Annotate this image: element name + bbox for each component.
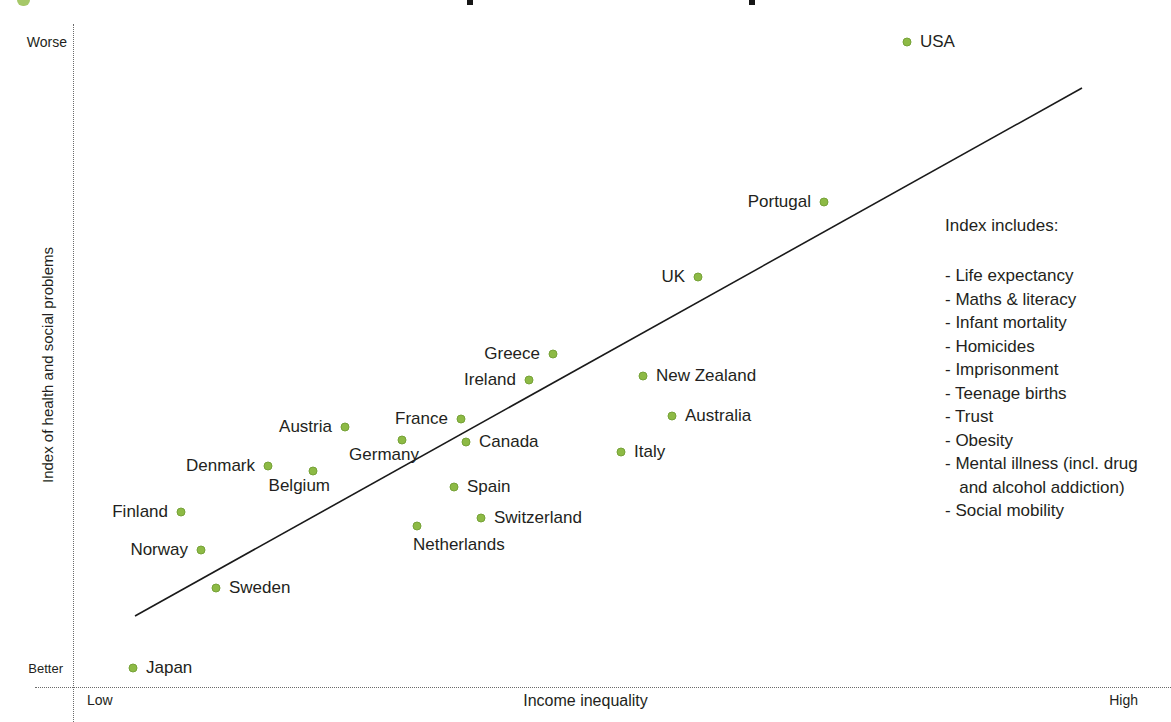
scatter-chart: Worse Better Index of health and social … (0, 0, 1171, 722)
data-point (212, 584, 221, 593)
data-point (413, 522, 422, 531)
data-point-label: Norway (130, 540, 188, 560)
data-point (477, 514, 486, 523)
index-legend: Index includes: - Life expectancy- Maths… (945, 216, 1171, 523)
data-point (341, 423, 350, 432)
x-axis-title: Income inequality (0, 692, 1171, 710)
y-axis-bottom-label: Better (0, 661, 63, 676)
data-point-label: Portugal (748, 192, 811, 212)
y-axis-top-label: Worse (0, 34, 67, 50)
data-point (525, 376, 534, 385)
y-axis-line (73, 24, 74, 722)
legend-item: - Imprisonment (945, 358, 1171, 382)
data-point-label: UK (661, 267, 685, 287)
data-point-label: New Zealand (656, 366, 756, 386)
data-point-label: Finland (112, 502, 168, 522)
data-point-label: Greece (484, 344, 540, 364)
data-point-label: Belgium (269, 476, 330, 496)
data-point (457, 415, 466, 424)
data-point-label: Ireland (464, 370, 516, 390)
cropped-title-fragment-green (17, 0, 30, 6)
data-point (549, 350, 558, 359)
legend-item: - Life expectancy (945, 264, 1171, 288)
data-point-label: Sweden (229, 578, 290, 598)
data-point (197, 546, 206, 555)
data-point-label: Canada (479, 432, 539, 452)
data-point (820, 198, 829, 207)
legend-item: - Obesity (945, 429, 1171, 453)
cropped-title-fragment (467, 0, 473, 5)
legend-item: - Trust (945, 405, 1171, 429)
legend-items: - Life expectancy- Maths & literacy- Inf… (945, 264, 1171, 523)
data-point (264, 462, 273, 471)
data-point-label: Australia (685, 406, 751, 426)
data-point (668, 412, 677, 421)
legend-item: - Mental illness (incl. drug and alcohol… (945, 452, 1171, 499)
data-point-label: Japan (146, 658, 192, 678)
legend-item: - Homicides (945, 335, 1171, 359)
legend-title: Index includes: (945, 216, 1171, 236)
data-point-label: Denmark (186, 456, 255, 476)
data-point-label: USA (920, 32, 955, 52)
x-axis-line (35, 687, 1171, 688)
data-point-label: France (395, 409, 448, 429)
data-point-label: Austria (279, 417, 332, 437)
y-axis-title: Index of health and social problems (39, 247, 56, 483)
data-point (177, 508, 186, 517)
legend-item: - Social mobility (945, 499, 1171, 523)
data-point-label: Spain (467, 477, 510, 497)
legend-item: - Maths & literacy (945, 288, 1171, 312)
legend-item: - Teenage births (945, 382, 1171, 406)
data-point-label: Germany (349, 445, 419, 465)
data-point (617, 448, 626, 457)
data-point (129, 664, 138, 673)
data-point (694, 273, 703, 282)
data-point (309, 467, 318, 476)
data-point (903, 38, 912, 47)
data-point-label: Switzerland (494, 508, 582, 528)
data-point-label: Italy (634, 442, 665, 462)
legend-item: - Infant mortality (945, 311, 1171, 335)
data-point-label: Netherlands (413, 535, 505, 555)
trend-line (135, 88, 1082, 616)
x-axis-right-label: High (1109, 692, 1138, 708)
data-point (450, 483, 459, 492)
data-point (398, 436, 407, 445)
data-point (639, 372, 648, 381)
cropped-title-fragment (749, 0, 755, 5)
data-point (462, 438, 471, 447)
